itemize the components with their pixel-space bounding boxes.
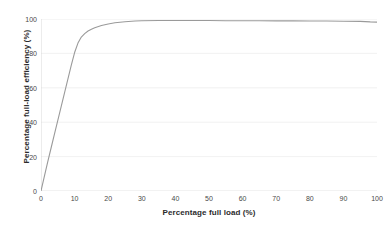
y-axis-title-wrap: Percentage full-load efficiency (%) bbox=[0, 0, 20, 233]
x-tick-label-70: 70 bbox=[272, 195, 280, 203]
x-axis-title: Percentage full load (%) bbox=[41, 208, 377, 217]
gridlines bbox=[41, 19, 377, 157]
x-axis-tick-labels: 0 10 20 30 40 50 60 70 80 90 100 bbox=[41, 195, 377, 207]
axis-lines bbox=[41, 19, 377, 191]
x-tick-label-20: 20 bbox=[104, 195, 112, 203]
x-tick-label-10: 10 bbox=[71, 195, 79, 203]
x-tick-label-90: 90 bbox=[339, 195, 347, 203]
plot-svg bbox=[41, 19, 377, 191]
x-tick-label-40: 40 bbox=[171, 195, 179, 203]
x-tick-label-100: 100 bbox=[371, 195, 383, 203]
y-tick-label-0: 0 bbox=[33, 188, 37, 195]
plot-area bbox=[41, 19, 377, 191]
x-tick-label-0: 0 bbox=[39, 195, 43, 203]
x-tick-label-80: 80 bbox=[306, 195, 314, 203]
efficiency-curve bbox=[41, 21, 377, 191]
efficiency-line-chart: 100 80 60 40 20 0 bbox=[0, 0, 389, 233]
x-tick-label-30: 30 bbox=[138, 195, 146, 203]
x-tick-label-60: 60 bbox=[239, 195, 247, 203]
y-axis-title: Percentage full-load efficiency (%) bbox=[22, 9, 31, 185]
x-tick-label-50: 50 bbox=[205, 195, 213, 203]
